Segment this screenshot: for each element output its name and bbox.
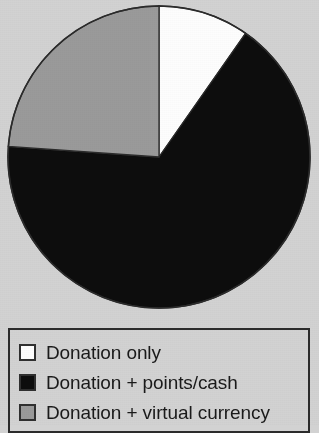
legend-swatch-donation-virtual-currency: [19, 404, 36, 421]
pie-chart-svg: [0, 0, 319, 320]
legend-label-donation-points-cash: Donation + points/cash: [46, 373, 238, 392]
pie-slice-group: [8, 6, 310, 308]
legend-swatch-donation-points-cash: [19, 374, 36, 391]
legend-label-donation-virtual-currency: Donation + virtual currency: [46, 403, 270, 422]
legend-item-donation-points-cash[interactable]: Donation + points/cash: [19, 367, 308, 397]
legend-label-donation-only: Donation only: [46, 343, 161, 362]
legend-item-donation-virtual-currency[interactable]: Donation + virtual currency: [19, 397, 308, 427]
pie-chart-plot-area: [0, 0, 319, 320]
chart-legend: Donation only Donation + points/cash Don…: [8, 328, 310, 433]
pie-slice[interactable]: [8, 6, 159, 157]
legend-item-donation-only[interactable]: Donation only: [19, 337, 308, 367]
legend-swatch-donation-only: [19, 344, 36, 361]
